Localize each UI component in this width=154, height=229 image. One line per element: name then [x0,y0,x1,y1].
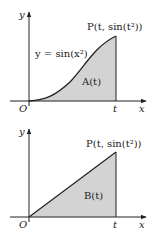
region-a-label: A(t) [81,76,101,87]
y-axis-label: y [18,9,25,20]
origin-label: O [19,103,27,114]
point-label: P(t, sin(t²)) [86,138,142,149]
top-figure: y x O t y = sin(x²) P(t, sin(t²)) A(t) [10,9,146,114]
bottom-figure: y x O t P(t, sin(t²)) B(t) [10,126,146,229]
x-axis-label: x [139,103,145,114]
y-axis-label: y [18,126,25,137]
area-a-region [29,36,116,101]
x-axis-label: x [139,219,145,229]
point-label: P(t, sin(t²)) [87,21,143,32]
region-b-label: B(t) [84,190,103,201]
figure-canvas: y x O t y = sin(x²) P(t, sin(t²)) A(t) y… [0,0,154,229]
t-label: t [113,219,118,229]
t-label: t [113,103,118,114]
origin-label: O [19,219,27,229]
curve-label: y = sin(x²) [34,48,88,59]
